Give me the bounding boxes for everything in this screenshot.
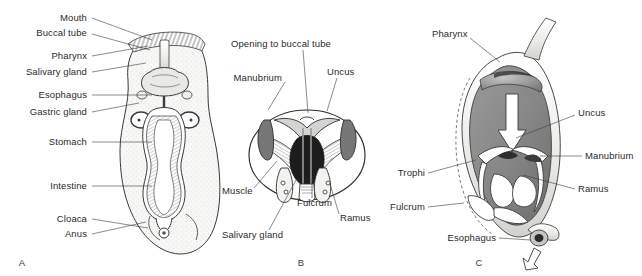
label-manubrium: Manubrium: [234, 73, 282, 83]
label-uncus: Uncus: [578, 108, 605, 118]
label-fulcrum: Fulcrum: [297, 198, 332, 208]
leader-line: [499, 238, 531, 240]
label-uncus: Uncus: [327, 67, 354, 77]
label-buccal-tube: Buccal tube: [36, 28, 87, 38]
label-manubrium: Manubrium: [585, 151, 633, 161]
label-ramus: Ramus: [578, 184, 609, 194]
panel-letter-c: C: [476, 257, 483, 268]
label-trophi: Trophi: [398, 168, 425, 178]
label-muscle: Muscle: [222, 186, 253, 196]
label-pharynx: Pharynx: [51, 51, 87, 61]
panel-b-artwork: [249, 110, 365, 203]
label-cloaca: Cloaca: [57, 214, 87, 224]
label-salivary-gland: Salivary gland: [26, 67, 87, 77]
label-salivary-gland: Salivary gland: [222, 230, 283, 240]
label-esophagus: Esophagus: [39, 90, 87, 100]
label-fulcrum: Fulcrum: [390, 202, 425, 212]
leader-line: [470, 38, 500, 62]
panel-a-artwork: [120, 32, 220, 254]
label-intestine: Intestine: [50, 181, 87, 191]
panel-letter-a: A: [19, 257, 25, 268]
label-ramus: Ramus: [340, 213, 371, 223]
panel-letter-b: B: [298, 257, 304, 268]
leader-line: [327, 78, 337, 111]
label-anus: Anus: [65, 229, 87, 239]
label-stomach: Stomach: [49, 137, 87, 147]
label-mouth: Mouth: [60, 13, 87, 23]
leader-line: [428, 203, 464, 207]
label-pharynx: Pharynx: [432, 29, 468, 39]
leader-line: [268, 82, 285, 110]
anatomy-figure: MouthBuccal tubePharynxSalivary glandEso…: [0, 0, 642, 276]
leader-line: [92, 222, 146, 234]
label-esophagus: Esophagus: [448, 233, 496, 243]
label-opening-to-buccal-tube: Opening to buccal tube: [231, 39, 331, 49]
leader-line: [303, 50, 308, 113]
label-gastric-gland: Gastric gland: [30, 107, 87, 117]
